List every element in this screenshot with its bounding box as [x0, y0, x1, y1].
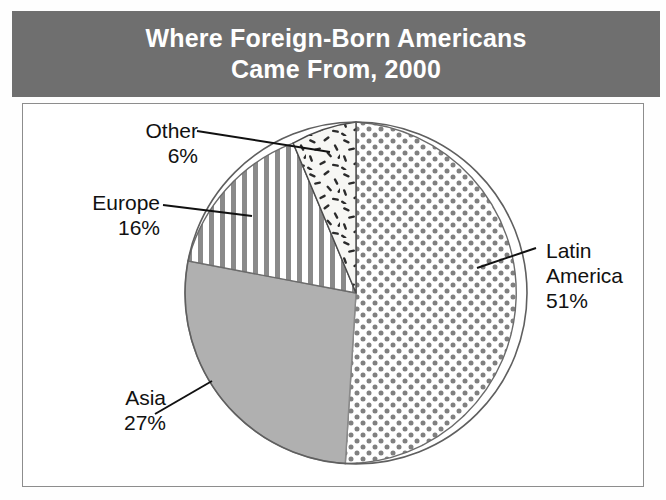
pie-label-other-name: Other — [145, 118, 198, 143]
pie-label-europe-name: Europe — [92, 190, 160, 215]
pie-label-latin-america-percent: 51% — [546, 288, 623, 313]
pie-label-other-percent: 6% — [145, 143, 198, 168]
pie-label-latin-america-name-line1: Latin — [546, 238, 623, 263]
pie-label-asia-name: Asia — [124, 385, 166, 410]
pie-label-latin-america-name-line2: America — [546, 263, 623, 288]
pie-label-europe-percent: 16% — [92, 215, 160, 240]
pie-label-europe: Europe 16% — [92, 190, 160, 240]
chart-title-line-1: Where Foreign-Born Americans — [145, 23, 526, 54]
chart-title-line-2: Came From, 2000 — [231, 54, 441, 85]
pie-label-other: Other 6% — [145, 118, 198, 168]
chart-title-bar: Where Foreign-Born Americans Came From, … — [12, 11, 660, 97]
pie-label-latin-america: Latin America 51% — [546, 238, 623, 313]
pie-label-asia-percent: 27% — [124, 410, 166, 435]
pie-chart-figure: Where Foreign-Born Americans Came From, … — [0, 0, 666, 500]
pie-label-asia: Asia 27% — [124, 385, 166, 435]
